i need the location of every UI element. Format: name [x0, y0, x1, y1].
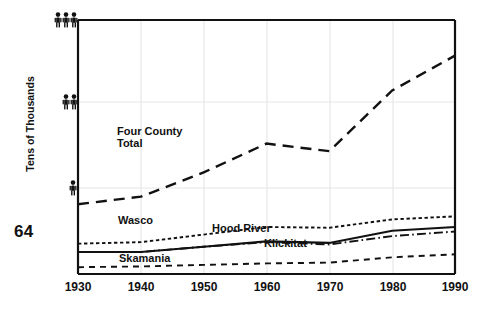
person-icon-group-three — [55, 12, 78, 27]
series-label-four-county-total-line1: Four County — [117, 125, 183, 137]
series-label-skamania: Skamania — [119, 252, 171, 264]
x-tick-label: 1940 — [128, 280, 155, 294]
vertical-gridlines — [141, 20, 393, 274]
person-icon — [63, 12, 70, 27]
person-icon — [63, 94, 70, 109]
y-axis-tick-icons — [55, 12, 78, 195]
series-label-klickitat: Klickitat — [264, 237, 307, 249]
series-label-four-county-total-line2: Total — [117, 137, 142, 149]
x-axis-tick-labels: 1930 1940 1950 1960 1970 1980 1990 — [65, 280, 469, 294]
person-icon — [55, 12, 62, 27]
x-tick-label: 1930 — [65, 280, 92, 294]
x-tick-label: 1960 — [254, 280, 281, 294]
x-tick-label: 1990 — [442, 280, 469, 294]
person-icon-group-one — [70, 180, 77, 195]
figure-container: 64 Tens of Thousands — [0, 0, 480, 311]
x-tick-label: 1980 — [380, 280, 407, 294]
person-icon — [71, 94, 78, 109]
series-inline-labels: Four County Total Wasco Hood River Klick… — [117, 125, 307, 264]
series-label-wasco: Wasco — [118, 214, 153, 226]
person-icon — [70, 180, 77, 195]
line-chart: 1930 1940 1950 1960 1970 1980 1990 Four … — [0, 0, 480, 311]
person-icon — [71, 12, 78, 27]
person-icon-group-two — [63, 94, 78, 109]
x-tick-label: 1950 — [191, 280, 218, 294]
series-label-hood-river: Hood River — [212, 222, 271, 234]
x-tick-label: 1970 — [317, 280, 344, 294]
